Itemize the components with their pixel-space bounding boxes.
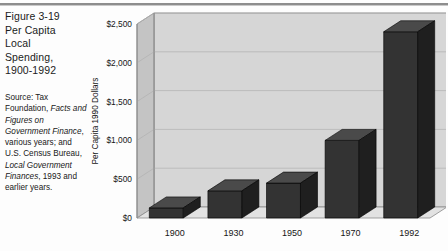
y-axis-tick-label: $0	[123, 213, 133, 223]
figure-source: Source: Tax Foundation, Facts and Figure…	[5, 92, 89, 194]
y-axis-tick-label: $500	[113, 174, 132, 184]
chart-side-wall	[137, 13, 154, 218]
source-text: Source: Tax Foundation,	[5, 93, 51, 113]
bar-chart: $0$500$1,000$1,500$2,000$2,500Per Capita…	[90, 10, 446, 246]
x-axis-tick-label: 1900	[165, 228, 185, 238]
chart-canvas: $0$500$1,000$1,500$2,000$2,500Per Capita…	[90, 10, 446, 246]
figure-title-line: Per Capita	[5, 24, 89, 38]
x-axis-tick-label: 1970	[341, 228, 361, 238]
top-rule-secondary	[0, 5, 448, 6]
bar-side-face	[418, 21, 435, 218]
y-axis-tick-label: $1,500	[106, 97, 132, 107]
figure-page: Figure 3-19Per CapitaLocalSpending,1900-…	[0, 0, 448, 251]
figure-title-line: 1900-1992	[5, 64, 89, 78]
figure-title-line: Local	[5, 37, 89, 51]
bar-side-face	[359, 129, 376, 218]
figure-title-line: Figure 3-19	[5, 10, 89, 24]
bar-front-face	[208, 191, 242, 218]
bar-group	[208, 180, 259, 218]
y-axis-tick-label: $2,000	[106, 58, 132, 68]
bar-group	[267, 172, 318, 218]
x-axis-tick-label: 1950	[282, 228, 302, 238]
bar-front-face	[325, 140, 359, 218]
y-axis-tick-label: $1,000	[106, 135, 132, 145]
y-axis-tick-label: $2,500	[106, 19, 132, 29]
x-axis-tick-label: 1930	[223, 228, 243, 238]
y-axis-title: Per Capita 1990 Dollars	[91, 78, 100, 165]
bar-front-face	[149, 208, 183, 218]
figure-title-line: Spending,	[5, 51, 89, 65]
bar-front-face	[384, 32, 418, 218]
x-axis-tick-label: 1992	[399, 228, 419, 238]
caption-column: Figure 3-19Per CapitaLocalSpending,1900-…	[5, 10, 89, 194]
bar-front-face	[267, 183, 301, 218]
figure-title: Figure 3-19Per CapitaLocalSpending,1900-…	[5, 10, 89, 78]
bar-group	[384, 21, 435, 218]
bar-group	[325, 129, 376, 218]
